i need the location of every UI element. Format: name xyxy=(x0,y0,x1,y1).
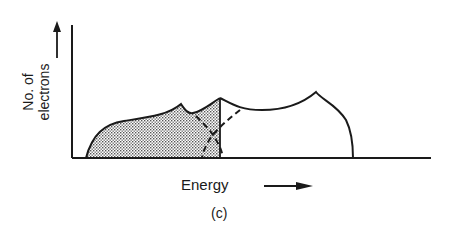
y-axis-label-line1: No. of xyxy=(20,32,36,152)
upper-band-curve xyxy=(220,92,353,158)
x-axis-label: Energy xyxy=(181,176,229,193)
y-axis-label: No. of electrons xyxy=(20,32,52,152)
figure-caption: (c) xyxy=(211,205,227,221)
x-arrow-head-icon xyxy=(296,182,313,190)
y-arrow-head-icon xyxy=(53,21,61,32)
diagram-canvas xyxy=(0,0,456,233)
y-axis-label-line2: electrons xyxy=(36,32,52,152)
